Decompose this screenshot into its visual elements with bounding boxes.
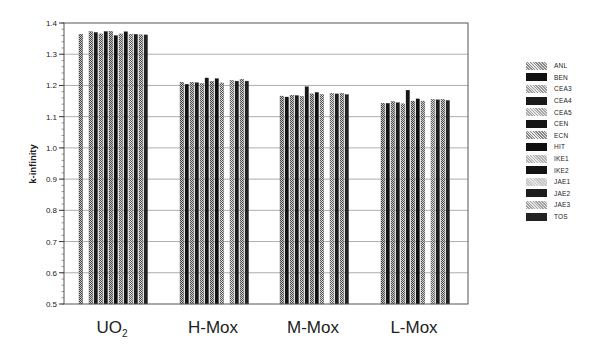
x-tick-label: H-Mox [188, 318, 239, 337]
y-tick-label: 0.7 [46, 238, 58, 247]
legend-swatch [526, 166, 547, 174]
legend-label: JAE2 [554, 190, 570, 197]
bar-tos-m-mox [345, 94, 349, 304]
legend-label: CEA5 [554, 109, 572, 116]
legend-label: BEN [554, 74, 568, 81]
y-tick-label: 0.6 [46, 269, 58, 278]
legend-label: CEA3 [554, 85, 572, 92]
legend-label: IKE2 [554, 167, 569, 174]
bar-hit-h-mox [215, 79, 219, 304]
bar-jae2-uo2 [134, 34, 138, 304]
y-tick-label: 0.9 [46, 175, 58, 184]
y-axis-label: k-infinity [27, 143, 38, 183]
x-tick-label: UO2 [96, 318, 128, 339]
legend-item-cen: CEN [526, 118, 572, 130]
y-tick-label: 1.1 [46, 113, 58, 122]
legend-label: IKE1 [554, 155, 569, 162]
y-tick-label: 1.0 [46, 144, 58, 153]
bar-chart: 0.50.60.70.80.91.01.11.21.31.4 UO2H-MoxM… [0, 0, 594, 347]
legend-item-ike1: IKE1 [526, 153, 572, 165]
legend-swatch [526, 213, 547, 221]
legend-item-cea5: CEA5 [526, 106, 572, 118]
bar-cen-l-mox [406, 90, 410, 304]
bar-jae2-m-mox [335, 94, 339, 304]
legend-label: HIT [554, 143, 565, 150]
bar-tos-h-mox [245, 81, 249, 304]
y-tick-label: 1.2 [46, 81, 58, 90]
bar-tos-uo2 [144, 35, 148, 304]
bar-tos-l-mox [446, 100, 450, 304]
legend-swatch [526, 120, 547, 128]
legend-item-cea4: CEA4 [526, 95, 572, 107]
legend-label: ANL [554, 62, 567, 69]
legend-item-ecn: ECN [526, 130, 572, 142]
bar-jae2-l-mox [436, 100, 440, 304]
legend-swatch [526, 97, 547, 105]
bar-ben-h-mox [185, 84, 189, 304]
legend-label: TOS [554, 213, 568, 220]
bar-cea4-h-mox [195, 83, 199, 304]
bar-jae2-h-mox [235, 81, 239, 304]
bar-cen-m-mox [305, 87, 309, 304]
x-tick-label: L-Mox [390, 318, 438, 337]
legend-swatch [526, 189, 547, 197]
bar-ben-l-mox [386, 103, 390, 304]
legend-swatch [526, 108, 547, 116]
legend-item-jae1: JAE1 [526, 176, 572, 188]
legend-swatch [526, 201, 547, 209]
legend-item-tos: TOS [526, 211, 572, 223]
x-axis: UO2H-MoxM-MoxL-Mox [96, 318, 438, 339]
y-tick-label: 1.4 [46, 19, 58, 28]
legend-label: ECN [554, 132, 568, 139]
bar-ben-m-mox [285, 97, 289, 304]
legend-swatch [526, 73, 547, 81]
legend-swatch [526, 131, 547, 139]
y-tick-label: 0.5 [46, 300, 58, 309]
legend-item-anl: ANL [526, 60, 572, 72]
legend-item-jae2: JAE2 [526, 188, 572, 200]
y-tick-label: 1.3 [46, 50, 58, 59]
legend-item-hit: HIT [526, 141, 572, 153]
bar-ike2-uo2 [124, 32, 128, 304]
bar-cea4-uo2 [94, 32, 98, 304]
bar-hit-l-mox [416, 99, 420, 304]
legend: ANLBENCEA3CEA4CEA5CENECNHITIKE1IKE2JAE1J… [526, 60, 572, 222]
y-tick-label: 0.8 [46, 206, 58, 215]
x-tick-label: M-Mox [287, 318, 339, 337]
legend-label: CEA4 [554, 97, 572, 104]
bar-cen-h-mox [205, 78, 209, 304]
legend-label: JAE3 [554, 201, 570, 208]
bar-cen-uo2 [104, 31, 108, 304]
bars [79, 31, 450, 304]
legend-item-ben: BEN [526, 72, 572, 84]
bar-hit-m-mox [315, 92, 319, 304]
legend-swatch [526, 85, 547, 93]
legend-item-ike2: IKE2 [526, 164, 572, 176]
bar-hit-uo2 [114, 35, 118, 304]
legend-item-jae3: JAE3 [526, 199, 572, 211]
legend-swatch [526, 143, 547, 151]
bar-cea4-m-mox [295, 95, 299, 304]
bar-cea4-l-mox [396, 103, 400, 304]
legend-swatch [526, 62, 547, 70]
legend-item-cea3: CEA3 [526, 83, 572, 95]
y-axis: 0.50.60.70.80.91.01.11.21.31.4 [46, 19, 64, 309]
legend-label: CEN [554, 120, 568, 127]
legend-label: JAE1 [554, 178, 570, 185]
legend-swatch [526, 178, 547, 186]
legend-swatch [526, 155, 547, 163]
